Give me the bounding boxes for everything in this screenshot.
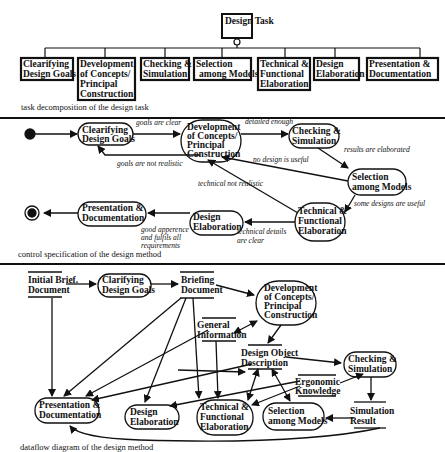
svg-text:detailed enough: detailed enough <box>245 117 293 126</box>
svg-text:Technical &FunctionalElaborati: Technical &FunctionalElaboration <box>200 402 249 432</box>
svg-text:Developmentof Concepts/Princip: Developmentof Concepts/PrincipalConstruc… <box>264 283 318 320</box>
svg-text:DesignElaboration: DesignElaboration <box>193 212 242 232</box>
svg-text:Selectionamong Models: Selectionamong Models <box>196 59 259 79</box>
svg-text:goals are clear: goals are clear <box>136 118 181 127</box>
svg-text:Developmentof Concepts/Princip: Developmentof Concepts/PrincipalConstruc… <box>80 59 134 99</box>
svg-text:Presentation &Documentation: Presentation &Documentation <box>82 203 145 223</box>
svg-text:Selectionamong Models: Selectionamong Models <box>352 172 412 192</box>
svg-text:ErgonomicKnowledge: ErgonomicKnowledge <box>295 377 340 396</box>
design-task-label: Design Task <box>225 16 275 26</box>
svg-text:GeneralInformation: GeneralInformation <box>197 320 247 340</box>
svg-text:results are elaborated: results are elaborated <box>344 145 410 154</box>
svg-text:DesignElaboration: DesignElaboration <box>130 407 179 427</box>
svg-text:no design is useful: no design is useful <box>253 155 309 164</box>
svg-text:Developmentof Concepts/Princip: Developmentof Concepts/PrincipalConstruc… <box>187 122 241 159</box>
svg-text:technical not realistic: technical not realistic <box>198 179 264 188</box>
svg-text:ClearifyingDesign Goals: ClearifyingDesign Goals <box>23 59 76 79</box>
caption-control-spec: control specification of the design meth… <box>18 249 162 259</box>
task-decomposition-labels: Design Task ClearifyingDesign Goals Deve… <box>21 16 432 112</box>
svg-text:SimulationResult: SimulationResult <box>350 406 395 426</box>
caption-task-decomposition: task decomposition of the design task <box>21 102 149 112</box>
svg-text:ClarifyingDesign Goals: ClarifyingDesign Goals <box>102 275 155 295</box>
svg-text:Selectionamong Models: Selectionamong Models <box>268 406 328 426</box>
svg-text:Initial Brief.Document: Initial Brief.Document <box>28 275 78 295</box>
caption-dataflow: dataflow diagram of the design method <box>20 442 154 452</box>
svg-text:Checking &Simulation: Checking &Simulation <box>292 126 341 146</box>
svg-text:Technical &FunctionalElaborati: Technical &FunctionalElaboration <box>260 59 309 89</box>
svg-text:Checking &Simulation: Checking &Simulation <box>348 354 397 374</box>
svg-text:technical detailsare clear: technical detailsare clear <box>237 227 286 245</box>
design-method-figure: Design Task ClearifyingDesign Goals Deve… <box>0 0 445 452</box>
svg-text:Presentation &Documentation: Presentation &Documentation <box>369 59 432 79</box>
svg-text:some designs are useful: some designs are useful <box>354 199 425 208</box>
svg-text:BriefingDocument: BriefingDocument <box>181 275 224 295</box>
svg-text:DesignElaboration: DesignElaboration <box>316 59 365 79</box>
svg-text:good apperenceand fulfils allr: good apperenceand fulfils allrequirement… <box>141 225 190 250</box>
svg-text:Presentation &Documentation: Presentation &Documentation <box>39 400 102 420</box>
svg-text:Checking &Simulation: Checking &Simulation <box>143 59 192 79</box>
svg-text:goals are not realistic: goals are not realistic <box>117 159 183 168</box>
svg-text:ClearifyingDesign Goals: ClearifyingDesign Goals <box>82 125 135 144</box>
svg-text:Technical &FunctionalElaborati: Technical &FunctionalElaboration <box>298 206 347 236</box>
